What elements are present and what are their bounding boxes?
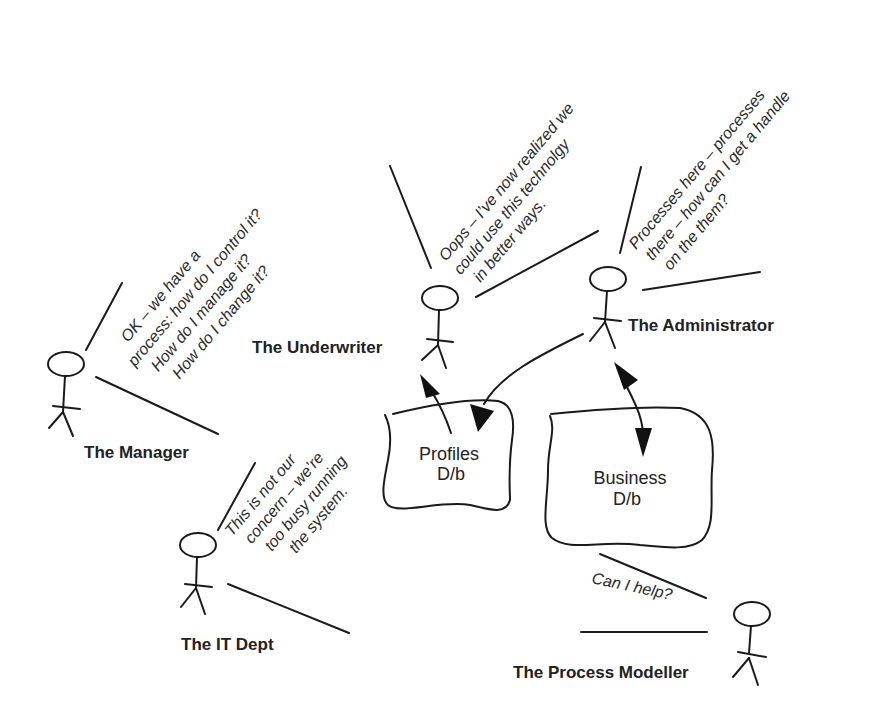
arrowhead-icon <box>420 374 440 398</box>
actor-manager: OK – we have a process: how do I control… <box>48 192 298 462</box>
arrowhead-icon <box>614 362 638 390</box>
arrow-administrator-to-profiles <box>470 334 583 432</box>
speech-line-lower <box>643 272 760 290</box>
actor-underwriter: Oops – I’ve now realized we could use th… <box>252 100 608 368</box>
stick-figure-icon <box>180 533 216 614</box>
actor-administrator: Processes here – processes there – how c… <box>590 74 809 348</box>
actor-label: The Process Modeller <box>513 663 689 682</box>
actor-label: The Administrator <box>628 316 774 335</box>
db-label-line: Business <box>593 468 666 488</box>
database-business: Business D/b <box>545 407 713 547</box>
db-label-line: D/b <box>437 464 465 484</box>
database-profiles: Profiles D/b <box>383 400 513 510</box>
speech-it-dept: This is not our concern – we’re too busy… <box>221 427 365 578</box>
actor-label: The Manager <box>84 443 189 462</box>
speech-line: could use this technolgy <box>450 135 573 278</box>
arrowhead-icon <box>635 428 652 457</box>
speech-line: Can I help? <box>590 569 674 603</box>
stick-figure-icon <box>48 352 84 436</box>
stick-figure-icon <box>422 286 458 368</box>
speech-line-lower <box>96 377 218 434</box>
speech-administrator: Processes here – processes there – how c… <box>625 74 808 277</box>
arrowhead-icon <box>470 404 494 432</box>
actor-label: The Underwriter <box>252 338 383 357</box>
db-label-line: D/b <box>613 489 641 509</box>
diagram-canvas: OK – we have a process: how do I control… <box>0 0 890 720</box>
speech-manager: OK – we have a process: how do I control… <box>108 192 298 397</box>
db-label-line: Profiles <box>419 444 479 464</box>
stick-figure-icon <box>590 267 626 348</box>
actor-label: The IT Dept <box>181 635 274 654</box>
actor-it-dept: This is not our concern – we’re too busy… <box>180 427 365 654</box>
stick-figure-icon <box>733 602 770 685</box>
speech-line-lower <box>228 584 349 633</box>
speech-line-upper <box>390 166 431 268</box>
speech-line-upper <box>86 283 122 350</box>
speech-process-modeller: Can I help? <box>590 569 674 603</box>
speech-underwriter: Oops – I’ve now realized we could use th… <box>435 100 608 291</box>
speech-line: there – how can I get a handle <box>642 87 793 263</box>
actor-process-modeller: Can I help? The Process Modeller <box>513 554 770 685</box>
